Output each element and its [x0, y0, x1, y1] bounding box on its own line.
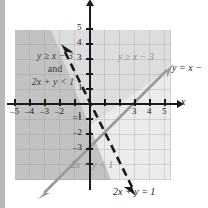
x-tick-label--5: –5 [10, 106, 19, 116]
x-tick-label-4: 4 [147, 106, 152, 116]
annotation-left-region-line3: 2x + y < 1 [17, 76, 89, 87]
x-axis [7, 103, 179, 105]
x-tick-label-3: 3 [132, 106, 137, 116]
annotation-inside-bottom: 2x + y < 1 [57, 159, 127, 170]
x-tick--2 [59, 99, 61, 106]
dashed-line-label: 2x + y = 1 [113, 186, 155, 197]
annotation-left-region-line1: y ≥ x − 3 [19, 50, 91, 61]
y-tick-1 [86, 88, 93, 90]
x-tick-label--2: –2 [55, 106, 64, 116]
page-edge-bar [0, 0, 5, 208]
annotation-right-region: y ≥ x − 3 [101, 51, 171, 62]
y-tick--1 [86, 118, 93, 120]
x-tick-2 [119, 99, 121, 106]
solid-line-y-equals-x-minus-3 [44, 70, 167, 193]
y-tick-label--3: –3 [73, 142, 82, 152]
x-tick-4 [149, 99, 151, 106]
y-tick-label--1: –1 [73, 112, 82, 122]
y-tick-5 [86, 28, 93, 30]
y-tick-4 [86, 43, 93, 45]
y-tick-label--2: –2 [73, 127, 82, 137]
x-tick-label-5: 5 [162, 106, 167, 116]
x-tick--1 [74, 99, 76, 106]
solid-line-arrow-down [38, 193, 50, 199]
x-tick--5 [14, 99, 16, 106]
y-axis-arrow [86, 0, 94, 6]
x-tick--4 [29, 99, 31, 106]
y-tick--2 [86, 133, 93, 135]
x-tick-label--3: –3 [40, 106, 49, 116]
x-tick-label--4: –4 [25, 106, 34, 116]
y-tick-label-4: 4 [77, 37, 82, 47]
y-tick-label-5: 5 [77, 22, 82, 32]
figure-canvas: –5 –4 –3 –2 –1 3 4 5 5 4 3 1 –1 –2 –3 y … [0, 0, 208, 208]
x-tick-3 [134, 99, 136, 106]
coordinate-plot: –5 –4 –3 –2 –1 3 4 5 5 4 3 1 –1 –2 –3 y … [15, 30, 171, 180]
y-tick--3 [86, 148, 93, 150]
x-tick-5 [164, 99, 166, 106]
x-tick-1 [104, 99, 106, 106]
annotation-left-region-line2: and [19, 63, 91, 74]
x-tick--3 [44, 99, 46, 106]
solid-line-label: y = x − [172, 62, 202, 73]
x-axis-label: x [181, 96, 185, 107]
